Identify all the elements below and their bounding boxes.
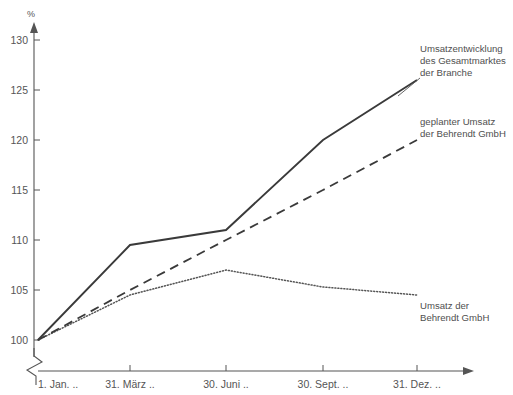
- y-tick-label-110: 110: [11, 234, 28, 246]
- annotation-gesamtmarkt-line1: Umsatzentwicklung: [420, 43, 503, 54]
- x-tick-marks: [130, 365, 417, 371]
- y-tick-label-130: 130: [10, 34, 28, 46]
- x-tick-label-jan: 1. Jan. ..: [38, 378, 78, 390]
- y-tick-marks: [34, 40, 40, 340]
- y-tick-labels: 100 105 110 115 120 125 130: [10, 34, 28, 346]
- annotation-gesamtmarkt: Umsatzentwicklung des Gesamtmarktes der …: [420, 43, 506, 78]
- y-axis-unit-label: %: [27, 9, 35, 19]
- annotation-umsatz-behrendt: Umsatz der Behrendt GmbH: [420, 300, 489, 323]
- y-tick-label-115: 115: [11, 184, 28, 196]
- annotation-geplant-line2: der Behrendt GmbH: [420, 128, 506, 139]
- series-line-gesamtmarkt: [38, 80, 417, 340]
- annotation-umsatz-line1: Umsatz der: [420, 300, 470, 311]
- series-line-geplanter-umsatz: [38, 140, 417, 340]
- line-chart: % 100 105 110 115 120: [0, 0, 513, 395]
- y-tick-label-120: 120: [10, 134, 28, 146]
- x-tick-label-juni: 30. Juni ..: [203, 378, 249, 390]
- y-tick-label-125: 125: [10, 84, 28, 96]
- x-tick-label-sept: 30. Sept. ..: [298, 378, 349, 390]
- leader-line-gesamtmarkt: [398, 78, 420, 96]
- x-tick-label-dez: 31. Dez. ..: [393, 378, 441, 390]
- y-tick-label-100: 100: [10, 334, 28, 346]
- annotation-geplant-line1: geplanter Umsatz: [420, 116, 495, 127]
- y-tick-label-105: 105: [10, 284, 28, 296]
- annotation-gesamtmarkt-line2: des Gesamtmarktes: [420, 55, 506, 66]
- annotation-gesamtmarkt-line3: der Branche: [420, 67, 472, 78]
- annotation-geplanter-umsatz: geplanter Umsatz der Behrendt GmbH: [420, 116, 506, 139]
- x-axis: [38, 367, 474, 375]
- y-axis-arrowhead: [30, 22, 38, 33]
- x-tick-label-maerz: 31. März ..: [105, 378, 155, 390]
- chart-container: % 100 105 110 115 120: [0, 0, 513, 395]
- annotation-umsatz-line2: Behrendt GmbH: [420, 312, 489, 323]
- x-axis-arrowhead: [463, 367, 474, 375]
- x-tick-labels: 1. Jan. .. 31. März .. 30. Juni .. 30. S…: [38, 378, 441, 390]
